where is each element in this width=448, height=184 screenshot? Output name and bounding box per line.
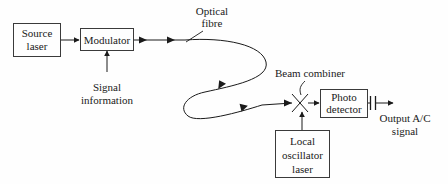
optical-fibre-annotation: Optical fibre <box>186 5 228 42</box>
photo-detector-label-line2: detector <box>326 103 362 115</box>
optical-fibre-curve <box>184 39 292 118</box>
signal-information-label-line2: information <box>81 94 133 106</box>
local-oscillator-label-line2: oscillator <box>282 149 323 161</box>
signal-information-label-line1: Signal <box>93 81 121 93</box>
beam-combiner-label: Beam combiner <box>275 67 345 79</box>
source-laser-label-line2: laser <box>27 40 48 52</box>
beam-combiner-leader-line <box>300 81 305 95</box>
photo-detector-label-line1: Photo <box>331 91 357 103</box>
flow-arrow-2 <box>167 37 175 44</box>
fibre-straight-run <box>134 37 185 44</box>
local-oscillator-label-line3: laser <box>292 163 313 175</box>
local-oscillator-label-line1: Local <box>290 135 315 147</box>
output-signal-label-line2: signal <box>392 125 418 137</box>
modulator-block: Modulator <box>81 29 134 51</box>
fibre-flow-arrow-3 <box>284 100 292 107</box>
source-laser-label-line1: Source <box>22 27 53 39</box>
source-laser-block: Source laser <box>14 24 61 57</box>
optical-fibre-label-line2: fibre <box>202 17 223 29</box>
photo-detector-block: Photo detector <box>321 90 368 118</box>
local-oscillator-block: Local oscillator laser <box>276 131 330 178</box>
flow-arrow-1 <box>139 37 147 44</box>
modulator-label: Modulator <box>84 34 131 46</box>
beam-combiner-symbol <box>292 94 308 112</box>
output-stage <box>368 96 393 110</box>
optical-link-diagram: Source laser Modulator Signal informatio… <box>0 0 448 184</box>
signal-information-input: Signal information <box>81 51 133 106</box>
output-signal-annotation: Output A/C signal <box>379 112 430 137</box>
diagram-canvas: Source laser Modulator Signal informatio… <box>0 0 448 184</box>
output-signal-label-line1: Output A/C <box>379 112 430 124</box>
optical-fibre-leader-line <box>186 31 203 42</box>
optical-fibre-label-line1: Optical <box>196 5 228 17</box>
optical-fibre-path <box>184 39 292 118</box>
